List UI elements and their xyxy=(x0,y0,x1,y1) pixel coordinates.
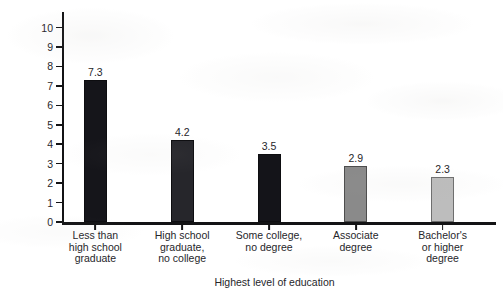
x-axis-line xyxy=(62,222,496,225)
y-tick-mark xyxy=(56,182,62,184)
category-label: Bachelor'sor higherdegree xyxy=(391,230,495,265)
bar: 2.3 xyxy=(431,177,454,222)
category-label-line: degree xyxy=(391,253,495,265)
x-axis-title: Highest level of education xyxy=(0,276,503,288)
bar-value-label: 3.5 xyxy=(262,140,277,152)
y-tick-mark xyxy=(56,66,62,68)
bar: 7.3 xyxy=(84,80,107,222)
y-tick-mark xyxy=(56,163,62,165)
category-label-line: no college xyxy=(130,253,234,265)
bar-value-label: 4.2 xyxy=(175,126,190,138)
bar-value-label: 2.9 xyxy=(348,152,363,164)
y-tick-mark xyxy=(56,27,62,29)
y-tick-mark xyxy=(56,221,62,223)
bar: 2.9 xyxy=(344,166,367,222)
y-tick-label: 2 xyxy=(47,177,53,189)
x-axis-title-text: Highest level of education xyxy=(214,276,334,288)
y-tick-mark xyxy=(56,105,62,107)
bar: 4.2 xyxy=(171,140,194,222)
y-tick-mark xyxy=(56,143,62,145)
category-label-line: Bachelor's xyxy=(391,230,495,242)
bar: 3.5 xyxy=(258,154,281,222)
y-tick-label: 4 xyxy=(47,138,53,150)
y-tick-label: 5 xyxy=(47,119,53,131)
bar-value-label: 7.3 xyxy=(88,66,103,78)
bar-chart-figure: Percent unemployed 012345678910 7.34.23.… xyxy=(0,0,503,297)
y-tick-mark xyxy=(56,124,62,126)
y-tick-mark xyxy=(56,202,62,204)
y-tick-label: 1 xyxy=(47,197,53,209)
y-tick-label: 3 xyxy=(47,158,53,170)
bar-value-label: 2.3 xyxy=(435,163,450,175)
y-tick-label: 9 xyxy=(47,41,53,53)
y-tick-label: 7 xyxy=(47,80,53,92)
y-tick-label: 0 xyxy=(47,216,53,228)
plot-area: 012345678910 7.34.23.52.92.3 xyxy=(62,12,496,224)
y-tick-mark xyxy=(56,46,62,48)
y-axis-line xyxy=(62,12,64,224)
y-tick-label: 10 xyxy=(41,22,53,34)
y-tick-label: 8 xyxy=(47,60,53,72)
y-tick-label: 6 xyxy=(47,99,53,111)
y-tick-mark xyxy=(56,85,62,87)
